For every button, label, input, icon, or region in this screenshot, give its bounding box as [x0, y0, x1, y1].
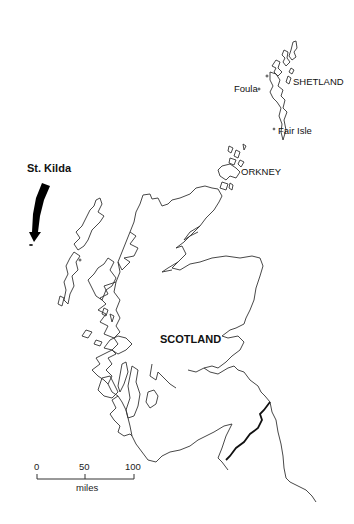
scale-tick-50: 50: [79, 462, 90, 472]
isle-of-mull: [104, 336, 132, 354]
foula-island: [258, 88, 260, 90]
label-scotland: SCOTLAND: [160, 334, 221, 345]
label-foula: Foula: [234, 84, 258, 94]
st-kilda-arrow: [29, 183, 50, 246]
scale-unit: miles: [76, 483, 98, 493]
outer-hebrides: [74, 198, 104, 250]
isle-of-islay: [98, 376, 118, 398]
scale-tick-0: 0: [34, 462, 39, 472]
label-shetland: SHETLAND: [293, 77, 344, 87]
scale-bar: [37, 474, 134, 479]
label-orkney: ORKNEY: [241, 167, 281, 177]
england-scotland-border: [226, 402, 270, 460]
isle-of-arran: [146, 390, 158, 408]
label-fair-isle: Fair Isle: [278, 126, 312, 136]
scale-tick-100: 100: [125, 462, 141, 472]
label-st-kilda: St. Kilda: [27, 163, 71, 174]
fair-isle-island: [273, 128, 275, 130]
isle-of-skye: [88, 258, 116, 300]
